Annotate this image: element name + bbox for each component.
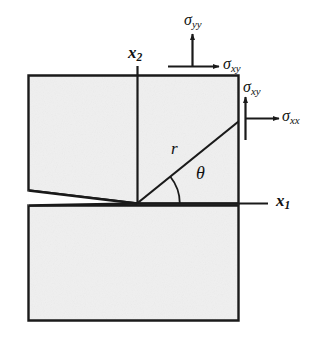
right-stress-cross [246,97,280,140]
x1-subscript: 1 [285,199,291,212]
lower-block-fill [29,206,239,321]
sigma-xx-subscript: xx [290,114,300,126]
x2-symbol: x [128,43,137,62]
sigma-xx-symbol: σ [282,107,290,124]
upper-block [29,76,239,204]
lower-block [29,206,239,321]
diagram-canvas [0,0,323,342]
sigma-yy-subscript: yy [192,18,202,30]
x2-axis-label: x2 [128,44,142,64]
crack-tip-diagram: σyy σxy σxy σxx x2 x1 r θ [0,0,323,342]
radius-label-r: r [171,140,178,157]
sigma-xy-right-label: σxy [243,79,261,97]
x1-axis-label: x1 [276,192,290,212]
upper-block-fill [29,76,239,204]
sigma-yy-label: σyy [184,12,202,30]
top-stress-cross [168,34,219,67]
sigma-xy-top-symbol: σ [223,55,231,72]
sigma-xy-top-label: σxy [223,56,241,74]
sigma-xy-right-subscript: xy [251,85,261,97]
x2-subscript: 2 [137,51,143,64]
sigma-yy-symbol: σ [184,11,192,28]
sigma-xx-label: σxx [282,108,300,126]
angle-label-theta: θ [196,164,205,182]
x1-symbol: x [276,191,285,210]
sigma-xy-top-subscript: xy [231,62,241,74]
sigma-xy-right-symbol: σ [243,78,251,95]
